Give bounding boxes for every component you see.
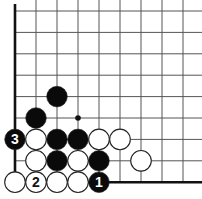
stone-icon (68, 151, 89, 172)
white-stone (47, 172, 68, 193)
white-stone (26, 129, 47, 150)
stone-icon (110, 129, 131, 150)
black-stone-3: 3 (5, 129, 26, 150)
black-stone (68, 129, 89, 150)
move-number-label: 2 (32, 174, 40, 190)
black-stone (47, 86, 68, 107)
stone-icon (131, 151, 152, 172)
black-stone (26, 108, 47, 129)
stone-icon (5, 172, 26, 193)
stone-icon (26, 151, 47, 172)
stone-icon (47, 129, 68, 150)
black-stone (89, 151, 110, 172)
go-board: 321 (0, 0, 202, 199)
stone-icon (26, 129, 47, 150)
stone-icon (89, 129, 110, 150)
white-stone (131, 151, 152, 172)
black-stone (47, 151, 68, 172)
white-stone (68, 151, 89, 172)
stone-icon (68, 129, 89, 150)
stone-icon (47, 172, 68, 193)
move-number-label: 1 (95, 174, 103, 190)
white-stone-2: 2 (26, 172, 47, 193)
white-stone (110, 129, 131, 150)
black-stone (47, 129, 68, 150)
stone-icon (68, 172, 89, 193)
stone-icon (47, 151, 68, 172)
star-point-icon (75, 115, 81, 121)
stone-icon (47, 86, 68, 107)
white-stone (5, 172, 26, 193)
star-points (75, 115, 81, 121)
stone-icon (89, 151, 110, 172)
white-stone (68, 172, 89, 193)
white-stone (26, 151, 47, 172)
black-stone-1: 1 (89, 172, 110, 193)
move-number-label: 3 (11, 131, 19, 147)
white-stone (89, 129, 110, 150)
stone-icon (26, 108, 47, 129)
